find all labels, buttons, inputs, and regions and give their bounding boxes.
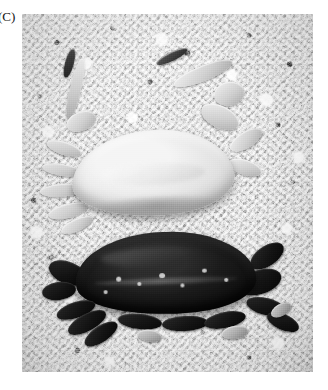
dark-crab-highlight-spot xyxy=(202,268,207,272)
figure-plate: (C) xyxy=(0,0,328,390)
dark-crab-carapace-gloss xyxy=(100,245,212,269)
dark-crab-highlight-spot xyxy=(181,283,185,287)
panel-label: (C) xyxy=(0,10,15,24)
dark-crab-highlight-spot xyxy=(116,276,121,281)
pale-crab-carapace-ridge xyxy=(101,160,206,188)
dark-crab-highlight-spot xyxy=(137,282,141,286)
dark-crab-highlight-spot xyxy=(104,290,108,294)
dark-crab-highlight-spot xyxy=(159,273,165,278)
dark-crab-highlight-spot xyxy=(224,277,228,281)
photograph xyxy=(22,14,313,372)
